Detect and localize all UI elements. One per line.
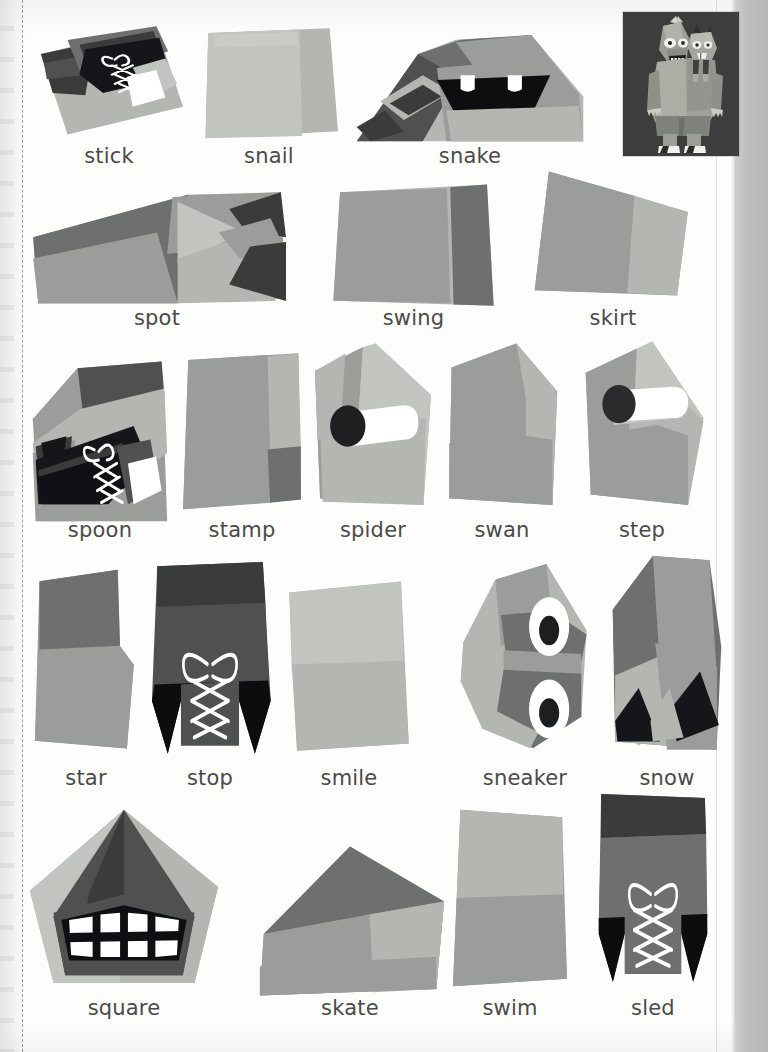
picture-card-spider[interactable] (310, 340, 436, 512)
word-label-skirt: skirt (524, 306, 702, 330)
picture-card-spoon[interactable] (30, 358, 170, 528)
word-label-spot: spot (28, 306, 286, 330)
spot-illustration (28, 190, 286, 308)
worksheet-page: stick snail snake spot swing skirt (0, 0, 768, 1052)
picture-card-stop[interactable] (144, 558, 276, 762)
picture-card-stick[interactable] (35, 24, 183, 139)
left-margin-texture (0, 0, 14, 1052)
right-gray-band (735, 0, 768, 1052)
word-label-square: square (26, 996, 222, 1020)
picture-card-stamp[interactable] (178, 350, 306, 516)
picture-card-skirt[interactable] (524, 166, 702, 301)
snail-illustration (200, 26, 338, 143)
word-label-spoon: spoon (26, 518, 174, 542)
word-label-sneaker: sneaker (452, 766, 598, 790)
skirt-illustration (524, 166, 702, 301)
picture-card-swing[interactable] (330, 182, 497, 311)
picture-card-swan[interactable] (442, 340, 562, 512)
word-label-star: star (24, 766, 148, 790)
dashed-tear-guide (22, 0, 23, 1052)
picture-card-snake[interactable] (352, 28, 588, 146)
word-label-snow: snow (604, 766, 730, 790)
picture-card-snail[interactable] (200, 26, 338, 143)
stick-illustration (35, 24, 183, 139)
spider-illustration (310, 340, 436, 512)
word-label-stick: stick (35, 144, 183, 168)
step-illustration (578, 338, 706, 512)
picture-card-spot[interactable] (28, 190, 286, 308)
stop-illustration (144, 558, 276, 762)
word-label-snake: snake (352, 144, 588, 168)
word-label-swing: swing (330, 306, 497, 330)
word-label-spider: spider (310, 518, 436, 542)
word-label-swan: swan (442, 518, 562, 542)
swing-illustration (330, 182, 497, 311)
picture-card-star[interactable] (28, 566, 143, 756)
word-label-step: step (578, 518, 706, 542)
smile-illustration (284, 578, 414, 758)
picture-card-skate[interactable] (252, 840, 448, 1002)
swim-illustration (448, 802, 572, 994)
picture-card-square[interactable] (26, 806, 222, 990)
sled-illustration (594, 790, 712, 990)
word-label-skate: skate (252, 996, 448, 1020)
skate-illustration (252, 840, 448, 1002)
word-label-stop: stop (148, 766, 272, 790)
picture-card-sneaker[interactable] (458, 560, 592, 756)
word-label-smile: smile (284, 766, 414, 790)
picture-card-smile[interactable] (284, 578, 414, 758)
picture-card-sled[interactable] (594, 790, 712, 990)
spoon-illustration (30, 358, 170, 528)
stamp-illustration (178, 350, 306, 516)
word-label-swim: swim (448, 996, 572, 1020)
snake-illustration (352, 28, 588, 146)
star-illustration (28, 566, 143, 756)
picture-card-snow[interactable] (608, 552, 726, 758)
two-headed-monster-illustration (623, 12, 739, 156)
sneaker-illustration (458, 560, 592, 756)
swan-illustration (442, 340, 562, 512)
picture-card-step[interactable] (578, 338, 706, 512)
word-label-stamp: stamp (178, 518, 306, 542)
snow-illustration (608, 552, 726, 758)
page-fold-line (716, 0, 717, 1052)
square-illustration (26, 806, 222, 990)
word-label-sled: sled (594, 996, 712, 1020)
word-label-snail: snail (200, 144, 338, 168)
picture-card-swim[interactable] (448, 802, 572, 994)
